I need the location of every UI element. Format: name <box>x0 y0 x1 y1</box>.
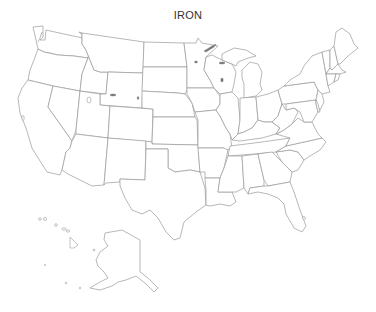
state-me[interactable] <box>334 28 358 64</box>
state-ak[interactable] <box>90 230 158 292</box>
us-states-map <box>0 0 376 312</box>
great-salt-lake <box>87 97 91 103</box>
state-hi[interactable] <box>39 218 78 249</box>
lake-nd <box>137 97 139 100</box>
lake-yellowstone <box>110 94 116 96</box>
state-co[interactable] <box>108 106 153 142</box>
aleutian-islands <box>44 249 95 289</box>
lake-michigan-islands <box>219 62 225 64</box>
state-nd[interactable] <box>143 42 187 67</box>
state-fl[interactable] <box>248 182 306 232</box>
state-nm[interactable] <box>104 138 146 185</box>
lake-tahoe <box>22 116 24 121</box>
lake-okeechobee <box>303 217 306 220</box>
lake-winnebago <box>221 78 223 82</box>
lake-upper-red <box>195 61 198 63</box>
state-ks[interactable] <box>152 117 198 145</box>
state-sd[interactable] <box>142 67 187 94</box>
